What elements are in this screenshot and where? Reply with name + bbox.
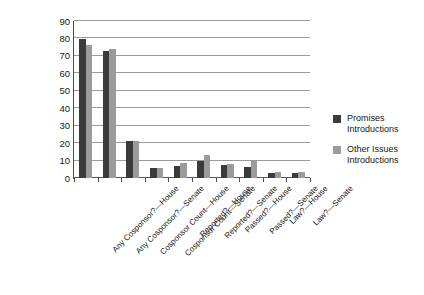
y-axis-tick-label: 80: [44, 34, 70, 44]
bar-chart: 9080706050403020100 Any Cosponsor?—House…: [0, 0, 424, 295]
y-axis-tick-label: 20: [44, 139, 70, 149]
bar-group: [74, 21, 98, 178]
bar-group: [121, 21, 145, 178]
legend-label-line2: Introductions: [347, 155, 421, 166]
bar-group: [216, 21, 240, 178]
bar: [204, 155, 211, 178]
bar-group: [192, 21, 216, 178]
bars-layer: [74, 21, 310, 178]
bar-group: [145, 21, 169, 178]
legend-swatch-light-icon: [333, 146, 341, 154]
bar-group: [263, 21, 287, 178]
legend-label-line1: Other Issues: [347, 144, 421, 155]
bar: [133, 141, 140, 179]
y-axis-tick-labels: 9080706050403020100: [40, 21, 70, 178]
bar-group: [168, 21, 192, 178]
y-axis-tick-label: 90: [44, 17, 70, 27]
x-axis-category-labels: Any Cosponsor?—HouseAny Cosponsor?—Senat…: [0, 178, 424, 295]
legend-entry-other-issues: Other Issues Introductions: [333, 144, 421, 166]
legend-entry-promises: Promises Introductions: [333, 113, 421, 135]
legend-swatch-dark-icon: [333, 115, 341, 123]
bar-group: [286, 21, 310, 178]
legend-label-line2: Introductions: [347, 124, 421, 135]
bar: [227, 164, 234, 178]
bar: [180, 163, 187, 178]
chart-legend: Promises Introductions Other Issues Intr…: [333, 113, 421, 175]
bar: [86, 45, 93, 178]
y-axis-tick-label: 50: [44, 86, 70, 96]
y-axis-tick-label: 30: [44, 121, 70, 131]
y-axis-tick-label: 60: [44, 69, 70, 79]
y-axis-tick-label: 10: [44, 156, 70, 166]
bar: [109, 49, 116, 178]
bar-group: [98, 21, 122, 178]
y-axis-tick-label: 40: [44, 104, 70, 114]
bar: [157, 168, 164, 178]
bar: [251, 161, 258, 178]
y-axis-tick-label: 70: [44, 51, 70, 61]
bar-group: [239, 21, 263, 178]
legend-label-line1: Promises: [347, 113, 421, 124]
